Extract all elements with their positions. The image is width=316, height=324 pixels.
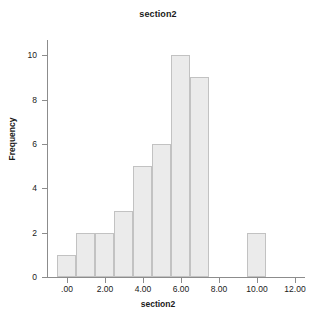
x-tick-mark	[67, 278, 68, 283]
histogram-bar	[57, 255, 76, 277]
x-axis-title: section2	[0, 299, 316, 309]
x-tick-mark	[257, 278, 258, 283]
y-tick-label: 6	[13, 140, 37, 149]
y-tick-label: 0	[13, 273, 37, 282]
chart-title: section2	[0, 9, 316, 19]
y-tick-mark	[42, 188, 47, 189]
histogram-bar	[171, 55, 190, 277]
plot-area	[48, 42, 306, 277]
x-tick-mark	[219, 278, 220, 283]
x-tick-mark	[181, 278, 182, 283]
histogram-bar	[190, 77, 209, 277]
x-tick-mark	[295, 278, 296, 283]
y-tick-mark	[42, 100, 47, 101]
histogram-bar	[76, 233, 95, 277]
y-tick-mark	[42, 55, 47, 56]
histogram-chart: section2 Frequency section2 0246810 .002…	[0, 0, 316, 324]
y-tick-mark	[42, 233, 47, 234]
y-tick-mark	[42, 144, 47, 145]
x-tick-mark	[143, 278, 144, 283]
histogram-bar	[247, 233, 266, 277]
x-tick-mark	[105, 278, 106, 283]
y-axis-title: Frequency	[7, 104, 17, 174]
x-axis-line	[47, 277, 305, 278]
y-tick-label: 10	[13, 51, 37, 60]
histogram-bar	[95, 233, 114, 277]
y-tick-mark	[42, 277, 47, 278]
y-tick-label: 4	[13, 184, 37, 193]
histogram-bar	[114, 211, 133, 278]
y-tick-label: 8	[13, 96, 37, 105]
histogram-bar	[133, 166, 152, 277]
y-tick-label: 2	[13, 229, 37, 238]
histogram-bar	[152, 144, 171, 277]
x-tick-label: 12.00	[273, 285, 316, 294]
